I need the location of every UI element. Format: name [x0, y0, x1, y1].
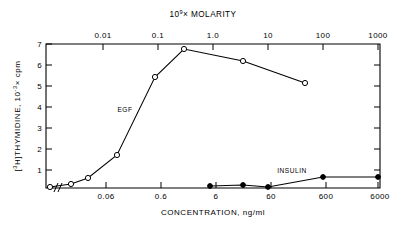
data-point-filled: [376, 175, 381, 180]
top-tick-label: 0.01: [94, 31, 111, 40]
plot-frame: [46, 44, 380, 188]
top-axis-tick-labels: 0.01 0.1 1.0 10 100 1000: [94, 31, 387, 40]
data-point-open: [152, 74, 157, 79]
data-point-filled: [321, 175, 326, 180]
y-tick-label: 6: [37, 61, 42, 70]
top-axis-ticks: [103, 44, 378, 50]
top-tick-label: 1.0: [207, 31, 219, 40]
x-tick-label: 60: [266, 192, 276, 201]
series-label-egf: EGF: [117, 106, 132, 113]
y-tick-label: 5: [37, 82, 42, 91]
x-tick-label: 0.6: [155, 192, 167, 201]
insulin-line: [210, 177, 378, 187]
figure-container: 109× MOLARITY 0.01 0.1 1.0 10 100 1000: [0, 0, 406, 233]
x-tick-label: 600: [319, 192, 334, 201]
top-axis-title: 109× MOLARITY: [170, 9, 237, 19]
bottom-axis-tick-labels: 0.06 0.6 6 60 600 6000: [97, 192, 389, 201]
x-axis-label: CONCENTRATION, ng/ml: [161, 208, 265, 217]
data-point-filled: [241, 183, 246, 188]
y-tick-label: 7: [37, 40, 42, 49]
data-point-open: [68, 181, 73, 186]
top-tick-label: 10: [263, 31, 273, 40]
x-tick-label: 6000: [370, 192, 390, 201]
data-point-open: [302, 80, 307, 85]
y-axis-label: [3H]THYMIDINE, 10-3× cpm: [12, 61, 22, 172]
egf-markers: [47, 46, 307, 189]
series-insulin: INSULIN: [208, 167, 381, 189]
data-point-open: [240, 58, 245, 63]
data-point-filled: [208, 184, 213, 189]
y-axis-tick-labels: 7 6 5 4 3 2 1: [37, 40, 42, 175]
y-tick-label: 3: [37, 124, 42, 133]
y-tick-label: 2: [37, 145, 42, 154]
data-point-filled: [266, 185, 271, 190]
top-tick-label: 1000: [368, 31, 388, 40]
y-axis-ticks-right: [374, 65, 380, 170]
top-tick-label: 0.1: [152, 31, 164, 40]
data-point-open: [85, 175, 90, 180]
y-tick-label: 1: [37, 166, 42, 175]
data-point-open: [47, 184, 52, 189]
series-egf: EGF: [47, 46, 307, 189]
data-point-open: [181, 46, 186, 51]
chart-svg: 109× MOLARITY 0.01 0.1 1.0 10 100 1000: [0, 0, 406, 233]
y-tick-label: 4: [37, 103, 42, 112]
y-axis-ticks: [46, 44, 52, 170]
egf-line: [50, 49, 305, 187]
x-tick-label: 0.06: [97, 192, 114, 201]
x-tick-label: 6: [214, 192, 219, 201]
series-label-insulin: INSULIN: [277, 167, 307, 174]
top-tick-label: 100: [316, 31, 331, 40]
data-point-open: [114, 152, 119, 157]
